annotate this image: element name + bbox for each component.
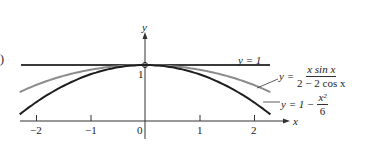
x-tick-label: −1 bbox=[85, 125, 97, 136]
x-axis-label: x bbox=[293, 116, 298, 127]
denominator: 6 bbox=[320, 105, 326, 117]
x-axis-arrow-icon bbox=[283, 119, 290, 124]
legend-prefix: y = 1 − bbox=[281, 99, 314, 110]
x-tick-label: 2 bbox=[251, 125, 257, 136]
leader-line-1 bbox=[257, 79, 278, 88]
denominator: 2 − 2 cos x bbox=[297, 77, 345, 89]
numerator: x² bbox=[317, 92, 327, 105]
legend-prefix: y = bbox=[279, 71, 294, 82]
panel-label: ) bbox=[0, 53, 4, 65]
legend-taylor-formula: y = 1 − x² 6 bbox=[281, 92, 328, 117]
x-tick-label: 0 bbox=[137, 125, 143, 136]
y-axis-arrow-icon bbox=[143, 32, 148, 39]
legend-y-equals-1: y = 1 bbox=[238, 55, 261, 66]
fraction: x sin x 2 − 2 cos x bbox=[297, 64, 345, 89]
x-tick-label: 1 bbox=[197, 125, 203, 136]
legend-xsinx-formula: y = x sin x 2 − 2 cos x bbox=[279, 64, 345, 89]
y-axis-label: y bbox=[142, 22, 147, 33]
numerator: x sin x bbox=[306, 64, 336, 77]
fraction: x² 6 bbox=[317, 92, 327, 117]
y-tick-label-1: 1 bbox=[138, 69, 144, 80]
x-tick-label: −2 bbox=[30, 125, 42, 136]
